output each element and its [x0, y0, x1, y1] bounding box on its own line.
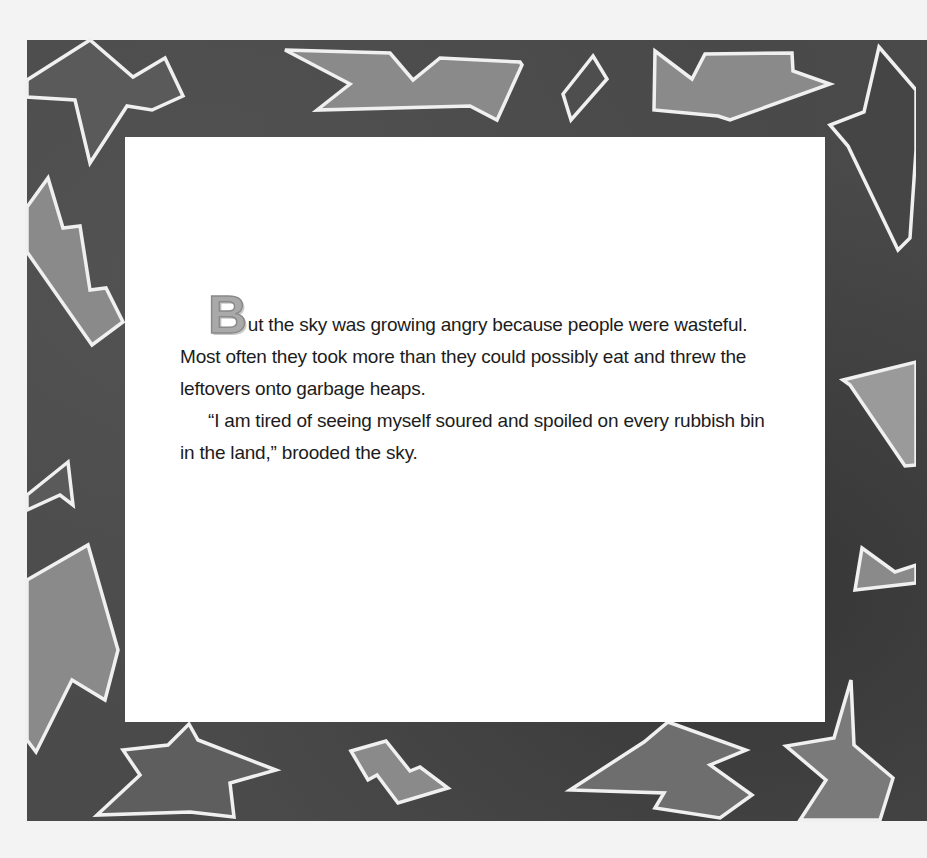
- paragraph-1-line-3: leftovers onto garbage heaps.: [180, 373, 780, 405]
- star-shape-bottom-left: [97, 724, 276, 817]
- story-text: But the sky was growing angry because pe…: [180, 293, 780, 469]
- diamond-shape-top: [563, 56, 607, 120]
- triangle-shape-left: [27, 462, 73, 510]
- paragraph-1: But the sky was growing angry because pe…: [180, 293, 780, 341]
- arrow-shape-bottom: [570, 722, 752, 818]
- bolt-shape-left: [27, 178, 123, 345]
- paragraph-2-line-1: “I am tired of seeing myself soured and …: [180, 405, 780, 437]
- fish-shape-top: [654, 51, 830, 120]
- paragraph-1-first-line: ut the sky was growing angry because peo…: [248, 314, 748, 335]
- triangle-shape-right: [855, 548, 916, 590]
- jagged-shape-left-bottom: [27, 545, 118, 752]
- paragraph-1-line-2: Most often they took more than they coul…: [180, 341, 780, 373]
- star-shape-top-right: [830, 47, 916, 250]
- paragraph-2-line-2: in the land,” brooded the sky.: [180, 437, 780, 469]
- arrow-shape-top: [285, 50, 522, 120]
- text-panel: But the sky was growing angry because pe…: [125, 137, 825, 722]
- kite-shape-right: [843, 362, 916, 466]
- z-shape-bottom: [351, 741, 448, 803]
- drop-cap: B: [208, 293, 247, 335]
